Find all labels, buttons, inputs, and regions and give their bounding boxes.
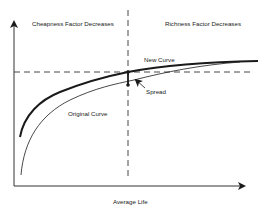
diagram-canvas: Cheapness Factor Decreases Richness Fact…	[0, 0, 267, 212]
yield-curve-spread-diagram: Cheapness Factor Decreases Richness Fact…	[0, 0, 267, 212]
spread-bottom-dot	[126, 83, 130, 87]
spread-label: Spread	[146, 88, 167, 95]
spread-top-dot	[126, 70, 130, 74]
new-curve-label: New Curve	[144, 56, 175, 63]
x-axis-label: Average Life	[113, 198, 148, 205]
richness-region-label: Richness Factor Decreases	[165, 20, 241, 27]
spread-pointer-arrow	[136, 80, 145, 88]
original-curve-label: Original Curve	[68, 110, 108, 117]
original-curve	[21, 62, 240, 175]
cheapness-region-label: Cheapness Factor Decreases	[32, 20, 114, 27]
